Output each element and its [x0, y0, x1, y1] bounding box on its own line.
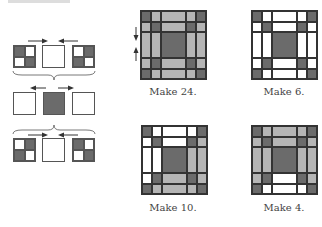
block-patch: [152, 126, 162, 137]
arrow-right-icon: [58, 85, 74, 91]
block-patch: [141, 69, 151, 80]
block-label: Make 24.: [133, 86, 213, 97]
block-patch: [161, 11, 186, 22]
block-patch: [297, 137, 307, 148]
block-patch: [186, 58, 196, 69]
block-patch: [307, 184, 317, 195]
block-patch: [141, 22, 151, 33]
block-patch: [262, 22, 272, 33]
block-patch: [297, 184, 307, 195]
block-patch: [262, 173, 272, 184]
brace-icon: [12, 123, 96, 135]
block-patch: [297, 173, 307, 184]
block-patch: [262, 69, 272, 80]
block-patch: [297, 11, 307, 22]
block-patch: [187, 173, 197, 184]
block-patch: [161, 69, 186, 80]
block-patch: [186, 69, 196, 80]
block-patch: [297, 22, 307, 33]
block-patch: [262, 147, 272, 173]
block-patch: [196, 11, 206, 22]
dark-square-unit: [43, 92, 65, 115]
block-patch: [272, 137, 297, 148]
block-patch: [152, 173, 162, 184]
block-patch: [272, 11, 297, 22]
block-patch: [197, 173, 207, 184]
block-patch: [297, 126, 307, 137]
block-patch: [307, 137, 317, 148]
block-patch: [161, 32, 186, 58]
block-patch: [151, 11, 161, 22]
block-patch: [151, 32, 161, 58]
block-patch: [262, 32, 272, 58]
arrow-left-icon: [58, 38, 78, 44]
block-patch: [186, 11, 196, 22]
block-patch: [186, 22, 196, 33]
quilt-block-make-24: [140, 10, 207, 80]
block-patch: [197, 137, 207, 148]
block-patch: [187, 184, 197, 195]
brace-icon: [12, 70, 96, 82]
block-patch: [152, 137, 162, 148]
block-patch: [272, 69, 297, 80]
block-patch: [252, 11, 262, 22]
block-patch: [262, 137, 272, 148]
block-patch: [262, 184, 272, 195]
quilt-block-make-4: [251, 125, 318, 195]
arrow-right-icon: [28, 38, 48, 44]
block-patch: [252, 137, 262, 148]
block-patch: [272, 173, 297, 184]
block-patch: [252, 173, 262, 184]
block-patch: [162, 173, 187, 184]
block-patch: [262, 126, 272, 137]
block-patch: [252, 58, 262, 69]
block-patch: [142, 137, 152, 148]
white-square-unit: [13, 92, 36, 115]
block-patch: [272, 32, 297, 58]
block-patch: [252, 126, 262, 137]
four-patch-unit: [13, 45, 36, 68]
block-patch: [252, 184, 262, 195]
block-patch: [252, 22, 262, 33]
block-patch: [272, 126, 297, 137]
block-patch: [197, 147, 207, 173]
block-patch: [262, 58, 272, 69]
block-patch: [196, 69, 206, 80]
block-patch: [197, 184, 207, 195]
quilt-block-make-6: [251, 10, 318, 80]
block-patch: [252, 69, 262, 80]
four-patch-unit: [72, 138, 95, 162]
block-patch: [196, 32, 206, 58]
arrow-left-icon: [30, 85, 46, 91]
block-patch: [307, 69, 317, 80]
block-patch: [297, 58, 307, 69]
block-patch: [252, 147, 262, 173]
block-patch: [307, 32, 317, 58]
block-patch: [272, 58, 297, 69]
white-square-unit: [42, 138, 65, 162]
block-patch: [186, 32, 196, 58]
block-patch: [141, 11, 151, 22]
block-patch: [252, 32, 262, 58]
pressing-arrow-up-icon: [133, 47, 139, 61]
block-patch: [162, 147, 187, 173]
block-patch: [196, 58, 206, 69]
block-patch: [272, 147, 297, 173]
block-label: Make 10.: [133, 202, 213, 213]
block-patch: [272, 22, 297, 33]
block-patch: [297, 147, 307, 173]
block-patch: [307, 173, 317, 184]
block-patch: [152, 184, 162, 195]
block-patch: [162, 137, 187, 148]
white-square-unit: [42, 45, 65, 68]
block-patch: [162, 184, 187, 195]
block-patch: [197, 126, 207, 137]
block-patch: [162, 126, 187, 137]
block-patch: [307, 126, 317, 137]
block-patch: [272, 184, 297, 195]
block-label: Make 4.: [244, 202, 322, 213]
block-patch: [142, 147, 152, 173]
block-patch: [142, 173, 152, 184]
pressing-arrow-down-icon: [133, 27, 139, 41]
four-patch-unit: [13, 138, 36, 162]
